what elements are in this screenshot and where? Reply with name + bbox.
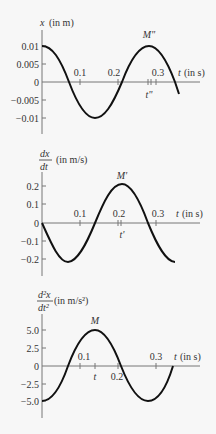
y-axis-label-num: dx — [40, 148, 50, 159]
y-axis-label-var: x — [39, 17, 45, 28]
x-tick: 0.3 — [150, 351, 163, 362]
y-tick: −0.005 — [11, 95, 39, 106]
y-tick: 0 — [34, 361, 39, 372]
y-axis-label-den: dt — [40, 161, 48, 172]
x-tick: 0.1 — [74, 67, 87, 78]
y-axis-label-num: d²x — [38, 289, 51, 300]
y-axis-label-unit: (in m/s) — [56, 154, 87, 166]
y-tick: 0 — [34, 77, 39, 88]
y-axis-label-unit: (in m/s²) — [54, 295, 88, 307]
y-axis-label-unit: (in m) — [49, 17, 74, 29]
x-axis-label-var: t — [178, 67, 181, 78]
x-tick: 0.1 — [78, 351, 91, 362]
y-tick: 0.2 — [27, 181, 40, 192]
x-tick: 0.2 — [111, 371, 124, 382]
x-axis-label-unit: (in s) — [182, 208, 203, 220]
x-tick: 0.3 — [152, 208, 165, 219]
chart-position: x (in m) 0.01 0.005 0 −0.005 −0.01 0.1 0… — [11, 17, 205, 134]
peak-label: M — [90, 315, 100, 326]
y-tick: −5.0 — [21, 396, 39, 407]
x-tick: 0.3 — [152, 67, 165, 78]
y-tick: −0.1 — [21, 236, 39, 247]
y-tick: 0.005 — [17, 59, 40, 70]
x-tick: 0.2 — [113, 208, 126, 219]
y-tick: 2.5 — [27, 343, 40, 354]
time-marker-label: t' — [120, 229, 126, 240]
peak-label: M' — [116, 170, 128, 181]
x-tick: 0.2 — [108, 67, 121, 78]
y-axis-label-den: dt² — [38, 302, 50, 313]
y-tick: 0.1 — [27, 199, 40, 210]
y-tick: −0.01 — [16, 113, 39, 124]
y-tick: 0 — [34, 218, 39, 229]
x-axis-label-unit: (in s) — [180, 351, 201, 363]
chart-acceleration: d²x dt² (in m/s²) 5.0 2.5 0 −2.5 −5.0 0.… — [21, 289, 201, 418]
time-marker-label: t" — [146, 89, 154, 100]
x-axis-label-unit: (in s) — [184, 67, 205, 79]
x-tick: 0.1 — [74, 208, 87, 219]
chart-velocity: dx dt (in m/s) 0.2 0.1 0 −0.1 −0.2 0.1 0… — [21, 148, 203, 276]
y-tick: −0.2 — [21, 254, 39, 265]
y-tick: −2.5 — [21, 379, 39, 390]
motion-graphs: x (in m) 0.01 0.005 0 −0.005 −0.01 0.1 0… — [0, 0, 216, 434]
y-tick: 0.01 — [22, 41, 40, 52]
peak-label: M" — [142, 29, 156, 40]
x-axis-label-var: t — [174, 351, 177, 362]
y-tick: 5.0 — [27, 325, 40, 336]
x-axis-label-var: t — [176, 208, 179, 219]
time-marker-label: t — [94, 371, 97, 382]
